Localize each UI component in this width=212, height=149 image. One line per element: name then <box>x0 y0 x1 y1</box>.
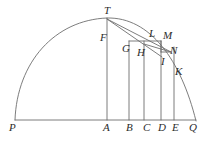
point-label-I: I <box>161 56 165 67</box>
point-label-P: P <box>9 122 16 133</box>
point-label-L: L <box>149 28 155 39</box>
point-label-A: A <box>103 122 110 133</box>
point-label-E: E <box>172 122 179 133</box>
geometry-figure: TFGLMHNIKPABCDEQ <box>0 0 212 149</box>
point-label-M: M <box>163 30 172 41</box>
point-label-C: C <box>143 122 150 133</box>
point-label-G: G <box>122 43 130 54</box>
point-label-H: H <box>137 47 145 58</box>
point-label-N: N <box>170 45 177 56</box>
point-label-F: F <box>100 32 107 43</box>
point-label-T: T <box>104 5 110 16</box>
point-label-D: D <box>158 122 166 133</box>
point-label-Q: Q <box>189 122 197 133</box>
point-label-K: K <box>175 66 182 77</box>
point-label-B: B <box>126 122 133 133</box>
